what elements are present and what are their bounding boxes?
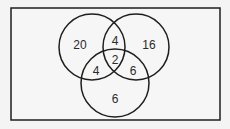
region-a-b-c: 2 <box>112 53 119 67</box>
venn-diagram: 20 4 16 2 4 6 6 <box>0 0 230 129</box>
region-a-and-c-only: 4 <box>93 64 100 78</box>
region-c-only: 6 <box>112 92 119 106</box>
region-b-and-c-only: 6 <box>130 64 137 78</box>
region-a-and-b-only: 4 <box>112 34 119 48</box>
region-b-only: 16 <box>142 38 156 52</box>
region-a-only: 20 <box>73 38 87 52</box>
